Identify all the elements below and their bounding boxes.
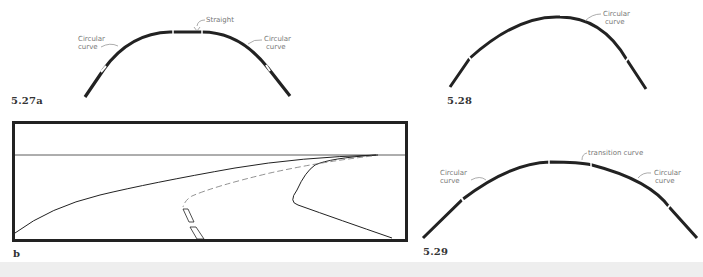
page-bottom-band bbox=[0, 262, 703, 277]
leader-left-curve bbox=[471, 178, 486, 181]
annotation-straight: Straight bbox=[206, 16, 234, 24]
figure-label-5-28: 5.28 bbox=[447, 95, 472, 106]
diagram-canvas: Straight Circular curve Circular curve C… bbox=[0, 0, 703, 277]
annotation-curve-1: Circular bbox=[603, 10, 630, 18]
figure-5-27a: Straight Circular curve Circular curve bbox=[78, 16, 291, 97]
leader-curve bbox=[585, 14, 601, 21]
figure-5-27b bbox=[14, 123, 407, 241]
leader-right-curve bbox=[638, 173, 651, 178]
leader-straight bbox=[197, 20, 205, 26]
figure-label-5-27b: b bbox=[13, 248, 20, 259]
figure-5-29: transition curve Circular curve Circular… bbox=[423, 149, 697, 238]
annotation-left-curve-1: Circular bbox=[440, 169, 467, 177]
leader-transition bbox=[582, 153, 587, 160]
road-curve-5-27a bbox=[85, 32, 290, 97]
road-curve-5-28 bbox=[450, 17, 646, 89]
annotation-left-curve-1: Circular bbox=[78, 35, 105, 43]
annotation-right-curve-2: curve bbox=[266, 43, 286, 51]
figure-label-5-29: 5.29 bbox=[423, 246, 448, 257]
figure-label-5-27a: 5.27a bbox=[11, 95, 43, 106]
annotation-right-curve-2: curve bbox=[655, 177, 675, 185]
leader-right-curve bbox=[248, 40, 262, 44]
annotation-left-curve-2: curve bbox=[78, 43, 98, 51]
annotation-transition: transition curve bbox=[588, 149, 643, 157]
figure-5-28: Circular curve bbox=[450, 10, 646, 89]
leader-left-curve bbox=[101, 44, 118, 47]
annotation-left-curve-2: curve bbox=[440, 177, 460, 185]
annotation-curve-2: curve bbox=[605, 18, 625, 26]
annotation-right-curve-1: Circular bbox=[264, 35, 291, 43]
annotation-right-curve-1: Circular bbox=[654, 169, 681, 177]
